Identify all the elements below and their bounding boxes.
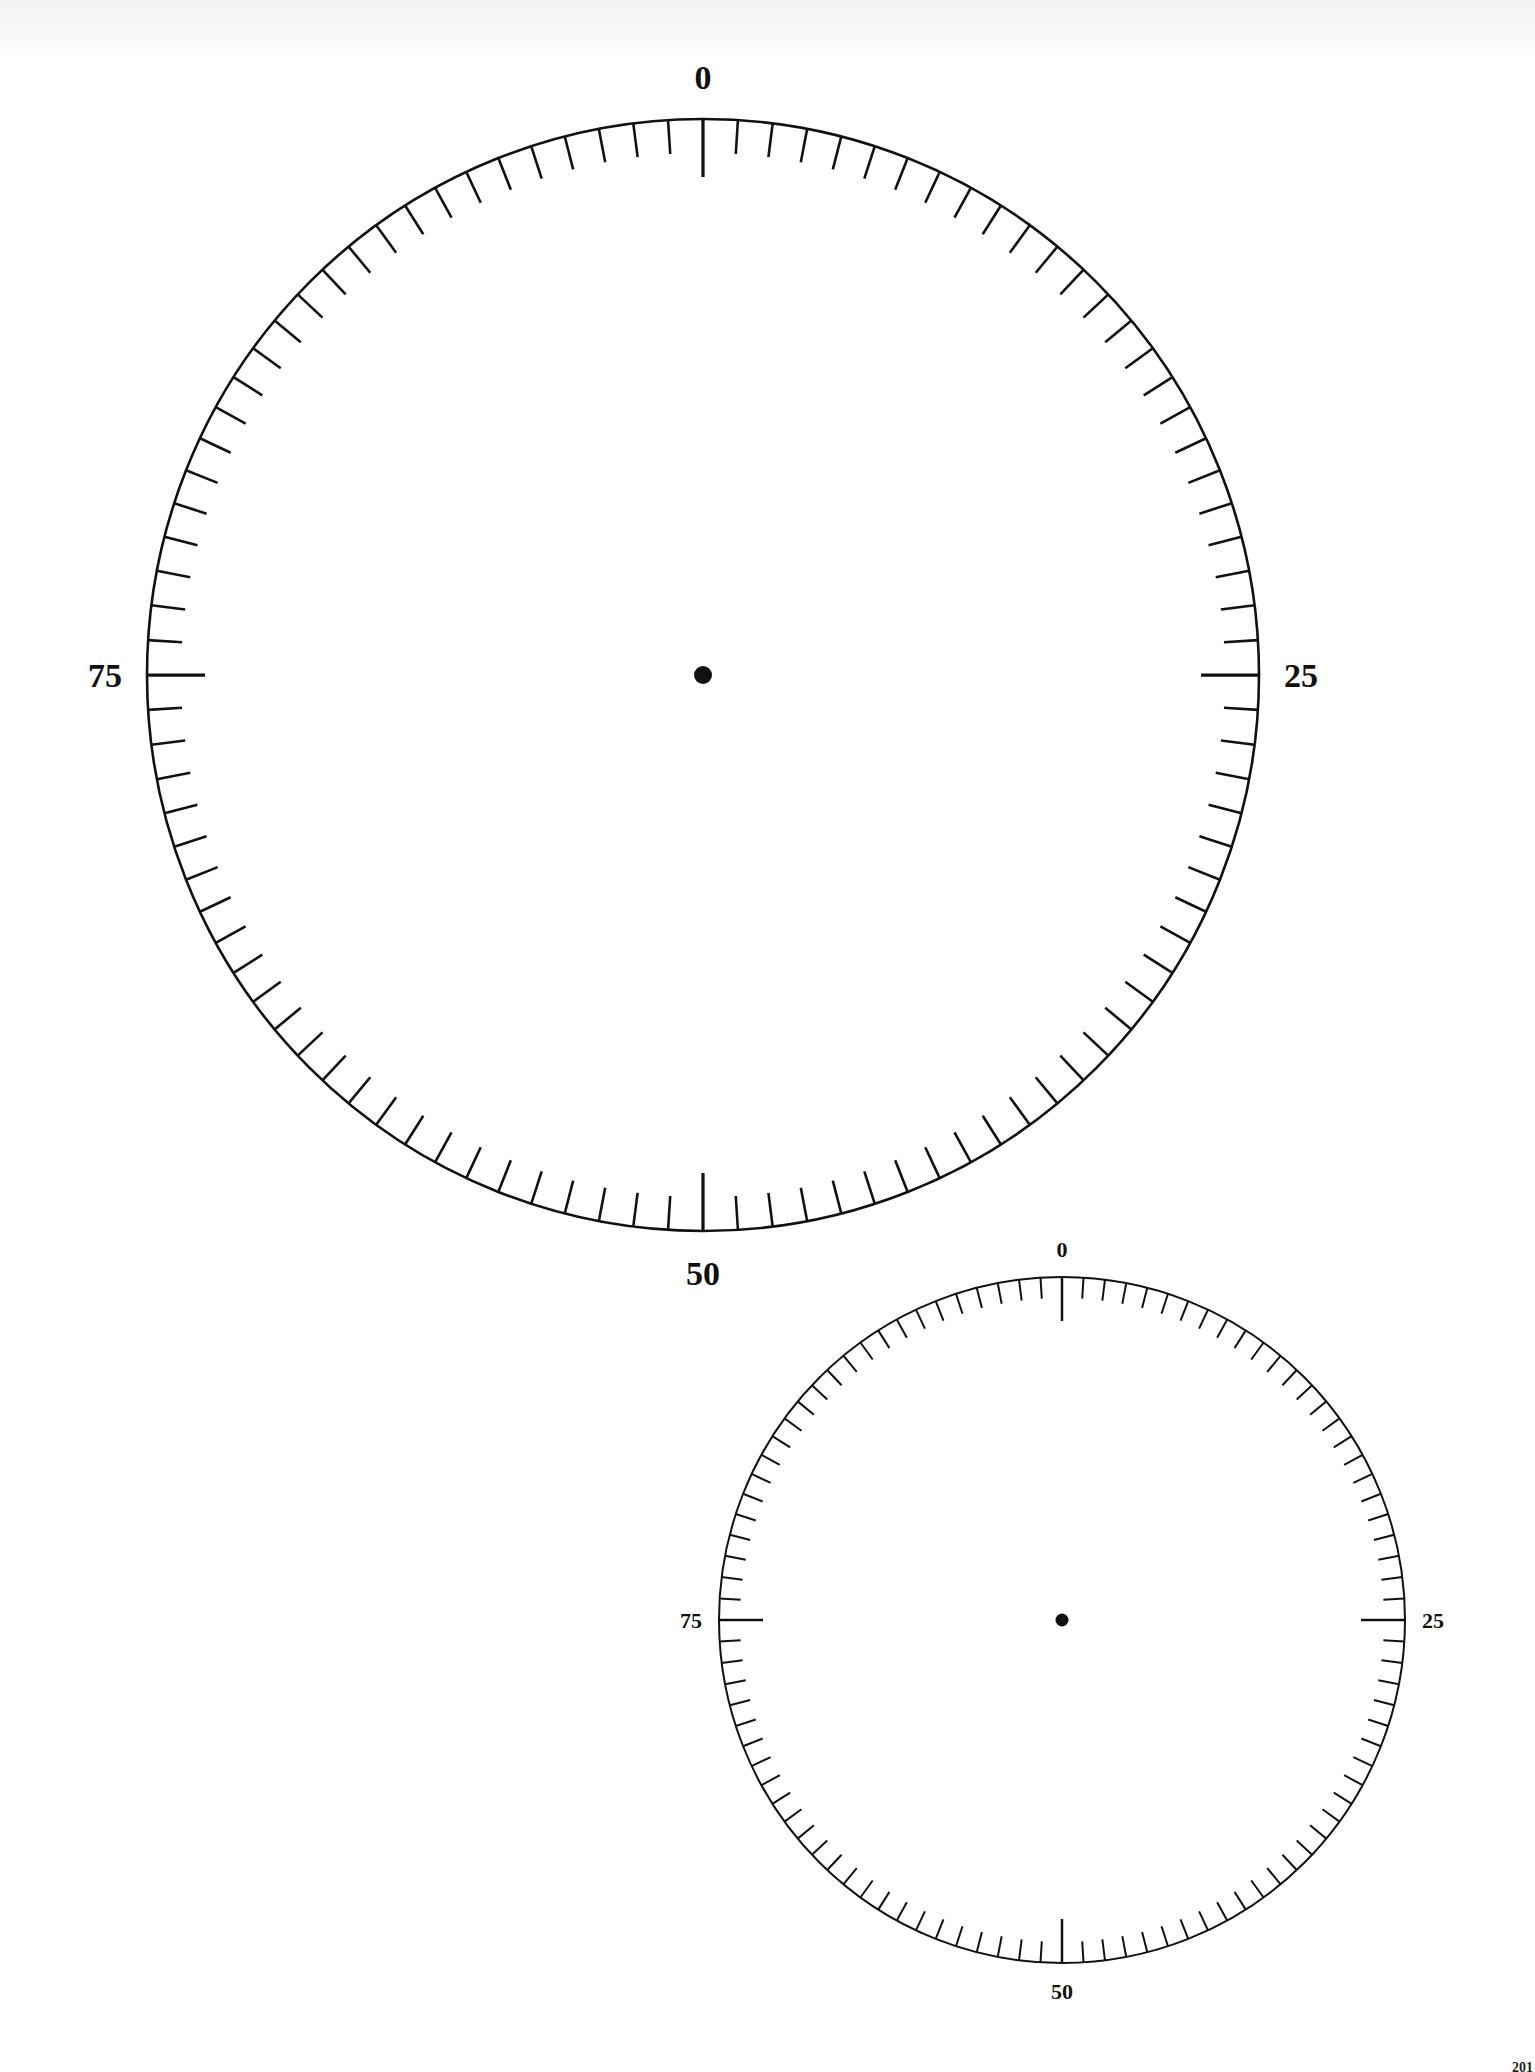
minor-tick: [1216, 773, 1249, 779]
minor-tick: [633, 1193, 637, 1227]
minor-tick: [1235, 1892, 1246, 1910]
minor-tick: [860, 1343, 872, 1360]
minor-tick: [275, 321, 301, 343]
minor-tick: [1036, 1077, 1058, 1103]
minor-tick: [1267, 1356, 1280, 1372]
minor-tick: [743, 1739, 763, 1747]
minor-tick: [1209, 805, 1242, 813]
minor-tick: [668, 1196, 670, 1230]
minor-tick: [827, 1855, 841, 1870]
minor-tick: [843, 1356, 856, 1372]
minor-tick: [234, 377, 263, 395]
minor-tick: [668, 120, 670, 154]
large-dial-label-75: 75: [88, 657, 122, 694]
minor-tick: [785, 1809, 802, 1821]
minor-tick: [1040, 1278, 1041, 1299]
minor-tick: [1282, 1370, 1296, 1385]
minor-tick: [298, 294, 323, 317]
minor-tick: [954, 1132, 970, 1162]
minor-tick: [376, 225, 396, 253]
minor-tick: [1199, 503, 1231, 514]
minor-tick: [736, 1514, 756, 1520]
minor-tick: [1188, 470, 1220, 483]
minor-tick: [897, 1319, 907, 1337]
minor-tick: [466, 1147, 480, 1178]
minor-tick: [720, 1598, 741, 1599]
minor-tick: [983, 206, 1001, 235]
minor-tick: [1361, 1739, 1381, 1747]
minor-tick: [435, 188, 451, 218]
large-dial-face: 0 25 50 75: [88, 59, 1318, 1292]
minor-tick: [1181, 1919, 1189, 1939]
minor-tick: [157, 773, 190, 779]
small-dial-label-0: 0: [1057, 1237, 1068, 1262]
minor-tick: [1102, 1939, 1105, 1960]
minor-tick: [936, 1919, 944, 1939]
minor-tick: [725, 1680, 746, 1684]
minor-tick: [435, 1132, 451, 1162]
minor-tick: [275, 1008, 301, 1030]
minor-tick: [1181, 1301, 1189, 1321]
minor-tick: [812, 1385, 827, 1399]
minor-tick: [833, 136, 841, 169]
minor-tick: [1060, 1056, 1083, 1081]
minor-tick: [916, 1310, 925, 1329]
minor-tick: [736, 120, 738, 154]
minor-tick: [936, 1301, 944, 1321]
minor-tick: [151, 740, 185, 744]
minor-tick: [1084, 294, 1109, 317]
minor-tick: [216, 926, 246, 942]
minor-tick: [298, 1032, 323, 1055]
minor-tick: [998, 1283, 1002, 1304]
page-number: 201: [1512, 2060, 1533, 2072]
minor-tick: [1235, 1330, 1246, 1348]
minor-tick: [565, 1181, 573, 1214]
minor-tick: [833, 1181, 841, 1214]
dials-canvas: 0 25 50 75 0 25 50 75: [0, 0, 1535, 2072]
minor-tick: [1082, 1278, 1083, 1299]
minor-tick: [801, 129, 807, 162]
minor-tick: [1381, 1660, 1402, 1663]
minor-tick: [1175, 897, 1206, 911]
minor-tick: [1019, 1939, 1022, 1960]
minor-tick: [798, 1401, 814, 1414]
minor-tick: [1188, 867, 1220, 880]
minor-tick: [1060, 270, 1083, 295]
minor-tick: [1297, 1385, 1312, 1399]
minor-tick: [234, 955, 263, 973]
minor-tick: [1125, 982, 1153, 1002]
minor-tick: [730, 1700, 750, 1705]
minor-tick: [954, 188, 970, 218]
minor-tick: [752, 1757, 771, 1766]
minor-tick: [1105, 1008, 1131, 1030]
minor-tick: [253, 348, 281, 368]
minor-tick: [812, 1840, 827, 1854]
minor-tick: [1209, 537, 1242, 545]
minor-tick: [772, 1436, 790, 1447]
large-dial-label-0: 0: [695, 59, 712, 96]
minor-tick: [878, 1892, 889, 1910]
minor-tick: [1383, 1598, 1404, 1599]
minor-tick: [977, 1932, 982, 1952]
minor-tick: [405, 206, 423, 235]
minor-tick: [1344, 1455, 1362, 1465]
minor-tick: [925, 1147, 939, 1178]
minor-tick: [1334, 1436, 1352, 1447]
minor-tick: [772, 1793, 790, 1804]
minor-tick: [897, 1902, 907, 1920]
minor-tick: [349, 1077, 371, 1103]
minor-tick: [1378, 1680, 1399, 1684]
minor-tick: [1323, 1809, 1340, 1821]
minor-tick: [1175, 438, 1206, 452]
minor-tick: [1142, 1288, 1147, 1308]
minor-tick: [349, 247, 371, 273]
minor-tick: [761, 1775, 779, 1785]
minor-tick: [768, 1193, 772, 1227]
minor-tick: [1160, 926, 1190, 942]
minor-tick: [736, 1720, 756, 1726]
minor-tick: [1162, 1926, 1168, 1946]
minor-tick: [376, 1097, 396, 1125]
minor-tick: [200, 438, 231, 452]
minor-tick: [916, 1911, 925, 1930]
minor-tick: [1040, 1941, 1041, 1962]
